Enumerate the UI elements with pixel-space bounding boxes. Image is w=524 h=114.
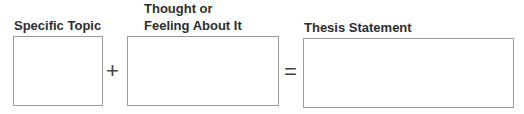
specific-topic-label: Specific Topic bbox=[14, 17, 101, 34]
thought-label-line2: Feeling About It bbox=[144, 17, 242, 34]
thesis-statement-label: Thesis Statement bbox=[304, 19, 412, 36]
thought-label-line1: Thought or bbox=[144, 0, 213, 17]
equals-sign: = bbox=[284, 61, 297, 83]
thesis-statement-box bbox=[303, 38, 514, 108]
specific-topic-box bbox=[13, 36, 103, 106]
plus-sign: + bbox=[106, 60, 119, 82]
thought-feeling-box bbox=[127, 36, 279, 106]
